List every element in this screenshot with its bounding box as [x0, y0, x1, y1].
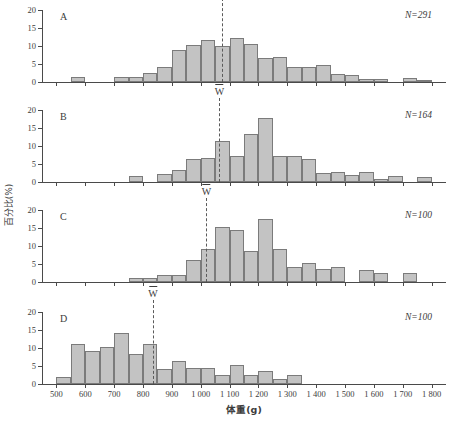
y-tick	[38, 110, 42, 111]
x-tick	[85, 182, 86, 186]
histogram-bar	[316, 65, 330, 82]
x-tick-label: 1 600	[364, 389, 383, 399]
plot-area-c: 05101520WCN=100	[42, 210, 446, 282]
y-tick-label: 10	[28, 141, 37, 151]
histogram-bar	[201, 249, 215, 282]
x-axis-line	[42, 282, 446, 283]
x-tick	[85, 384, 86, 388]
histogram-bar	[359, 79, 373, 82]
x-tick	[114, 384, 115, 388]
x-tick-label: 900	[165, 389, 178, 399]
sample-size-label: N=100	[405, 210, 432, 220]
histogram-bar	[403, 78, 417, 82]
x-tick	[143, 182, 144, 186]
histogram-bar	[331, 267, 345, 282]
y-tick-label: 20	[28, 205, 37, 215]
x-tick	[374, 384, 375, 388]
histogram-bar	[56, 377, 70, 384]
x-tick	[56, 384, 57, 388]
histogram-bar	[157, 67, 171, 82]
y-tick	[38, 264, 42, 265]
histogram-bar	[331, 74, 345, 82]
panel-letter: C	[60, 211, 67, 222]
x-tick	[114, 182, 115, 186]
mean-symbol: W	[148, 288, 157, 299]
histogram-bar	[201, 368, 215, 384]
y-tick	[38, 384, 42, 385]
histogram-bar	[215, 227, 229, 282]
x-tick	[172, 384, 173, 388]
y-axis-line	[42, 210, 43, 282]
histogram-bar	[302, 159, 316, 182]
histogram-bar	[215, 375, 229, 384]
y-tick-label: 15	[28, 123, 37, 133]
y-tick	[38, 282, 42, 283]
x-tick-label: 1 700	[393, 389, 412, 399]
histogram-bar	[244, 251, 258, 282]
x-tick	[287, 182, 288, 186]
histogram-bar	[129, 77, 143, 82]
x-tick	[230, 384, 231, 388]
x-tick	[374, 282, 375, 286]
histogram-bar	[172, 275, 186, 282]
mean-line	[219, 98, 220, 182]
panel-b: 05101520WBN=164	[42, 110, 446, 206]
x-tick	[374, 82, 375, 86]
sample-size-label: N=291	[405, 10, 432, 20]
y-tick-label: 0	[32, 177, 36, 187]
histogram-bar	[374, 179, 388, 182]
histogram-bar	[100, 347, 114, 384]
histogram-bar	[129, 278, 143, 282]
histogram-bar	[287, 375, 301, 384]
x-tick	[114, 82, 115, 86]
panel-letter: D	[60, 313, 67, 324]
x-tick-label: 800	[137, 389, 150, 399]
histogram-bar	[359, 270, 373, 282]
histogram-bar	[172, 170, 186, 182]
y-tick-label: 0	[32, 277, 36, 287]
histogram-bar	[186, 159, 200, 182]
x-tick	[56, 82, 57, 86]
histogram-bar	[129, 354, 143, 384]
mean-label: W	[148, 286, 157, 299]
y-tick-label: 20	[28, 105, 37, 115]
y-tick	[38, 228, 42, 229]
x-axis-line	[42, 82, 446, 83]
histogram-bar	[258, 371, 272, 384]
x-tick-label: 700	[108, 389, 121, 399]
y-tick-label: 5	[32, 259, 36, 269]
x-tick	[143, 282, 144, 286]
x-tick	[201, 384, 202, 388]
x-tick	[201, 282, 202, 286]
histogram-bar	[403, 273, 417, 282]
x-tick-label: 600	[79, 389, 92, 399]
x-tick	[403, 384, 404, 388]
y-tick-label: 10	[28, 241, 37, 251]
x-tick	[403, 182, 404, 186]
histogram-bar	[114, 77, 128, 82]
y-tick	[38, 182, 42, 183]
histogram-bar	[374, 79, 388, 82]
plot-area-b: 05101520WBN=164	[42, 110, 446, 182]
y-tick	[38, 210, 42, 211]
x-tick	[230, 182, 231, 186]
panel-letter: A	[60, 11, 67, 22]
y-tick-label: 5	[32, 159, 36, 169]
histogram-bar	[129, 176, 143, 182]
x-tick	[172, 282, 173, 286]
x-tick-label: 1 000	[191, 389, 210, 399]
histogram-bar	[287, 67, 301, 82]
x-tick	[143, 384, 144, 388]
histogram-bar	[273, 57, 287, 82]
x-tick-label: 1 300	[278, 389, 297, 399]
histogram-bar	[215, 141, 229, 182]
x-tick	[287, 282, 288, 286]
mean-symbol: W	[202, 186, 211, 197]
y-axis-line	[42, 10, 43, 82]
y-tick	[38, 146, 42, 147]
x-tick	[316, 384, 317, 388]
y-axis-label-wrap: 百分比(%)	[0, 150, 16, 260]
y-tick	[38, 46, 42, 47]
y-tick	[38, 348, 42, 349]
histogram-bar	[186, 260, 200, 282]
